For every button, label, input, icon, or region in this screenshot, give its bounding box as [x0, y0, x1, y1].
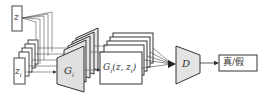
local-noise-label-sub: i [20, 71, 22, 78]
generated-label: Gi(z, zi) [103, 63, 136, 74]
converge-arrowhead [168, 60, 176, 68]
generated-label-args: (z, z [112, 62, 131, 72]
generator-label-sub: i [72, 71, 74, 78]
generator-label: Gi [64, 66, 74, 78]
discriminator-label: D [182, 59, 190, 69]
global-noise-label: z [14, 13, 19, 22]
local-noise-label: zi [15, 67, 22, 78]
gan-diagram [0, 0, 265, 98]
generated-label-args-end: ) [133, 62, 137, 72]
generator-label-main: G [64, 65, 72, 76]
generator-stack [57, 28, 98, 92]
generated-stack [100, 33, 153, 84]
output-label: 真/假 [223, 58, 244, 67]
